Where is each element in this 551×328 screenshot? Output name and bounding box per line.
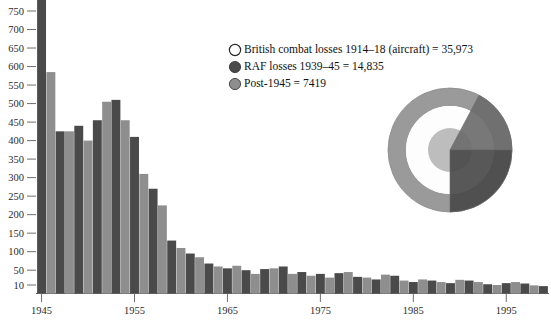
x-tick-label: 1955 (124, 305, 145, 316)
y-tick-label: 10 (14, 280, 25, 291)
y-tick-label: 700 (8, 24, 24, 35)
bar (353, 277, 362, 294)
bar (335, 273, 344, 293)
chart-root: 1050100150200250300350400450500550600650… (0, 0, 551, 328)
bar (195, 257, 204, 293)
bar (269, 268, 278, 293)
bar (130, 137, 139, 294)
x-tick-label: 1995 (496, 305, 517, 316)
bar (167, 241, 176, 294)
y-tick-label: 750 (8, 6, 24, 17)
bar (390, 276, 399, 294)
bar (149, 189, 158, 294)
bar (102, 102, 111, 294)
y-tick-label: 550 (8, 80, 24, 91)
x-tick-label: 1985 (403, 305, 424, 316)
bar (372, 279, 381, 293)
bar (46, 72, 55, 293)
bar (307, 276, 316, 294)
bar (511, 282, 520, 293)
bar (251, 274, 260, 294)
bar (465, 281, 474, 294)
bar (446, 283, 455, 293)
bar (539, 286, 548, 293)
y-tick-label: 200 (8, 209, 24, 220)
histogram-and-pie-figure: 1050100150200250300350400450500550600650… (0, 0, 551, 328)
chart-legend: British combat losses 1914–18 (aircraft)… (229, 43, 473, 89)
bar (316, 274, 325, 294)
pie-chart (388, 88, 512, 212)
legend-marker-filled-circle-icon (229, 78, 240, 89)
legend-marker-filled-circle-icon (229, 61, 240, 72)
legend-marker-open-circle-icon (229, 44, 240, 55)
x-axis-group: 194519551965197519851995 (31, 294, 549, 317)
pie-wedge-lower-right-wedge (450, 150, 512, 212)
bar (204, 264, 213, 294)
y-tick-label: 100 (8, 246, 24, 257)
bar (381, 275, 390, 294)
y-axis-group: 1050100150200250300350400450500550600650… (8, 6, 36, 291)
bar (325, 278, 334, 294)
bar (502, 283, 511, 293)
bar (492, 285, 501, 294)
y-tick-label: 600 (8, 61, 24, 72)
bar (520, 284, 529, 294)
bar (260, 269, 269, 293)
y-tick-label: 350 (8, 154, 24, 165)
bar (437, 282, 446, 293)
bar (158, 205, 167, 293)
x-tick-label: 1975 (310, 305, 331, 316)
bar (242, 270, 251, 293)
bar-clipped (37, 0, 46, 294)
bar (297, 272, 306, 293)
bar (418, 279, 427, 293)
bar (111, 100, 120, 294)
legend-label: RAF losses 1939–45 = 14,835 (244, 60, 384, 73)
legend-label: Post-1945 = 7419 (244, 77, 326, 89)
bar (232, 266, 241, 294)
y-tick-label: 150 (8, 228, 24, 239)
bar (74, 126, 83, 294)
bar (139, 174, 148, 294)
bar (214, 266, 223, 293)
bar (84, 141, 93, 294)
y-tick-label: 250 (8, 191, 24, 202)
bar (427, 281, 436, 294)
bar (121, 120, 130, 293)
y-tick-label: 400 (8, 135, 24, 146)
bar (279, 266, 288, 293)
x-tick-label: 1945 (31, 305, 52, 316)
y-tick-label: 300 (8, 172, 24, 183)
legend-label: British combat losses 1914–18 (aircraft)… (244, 43, 473, 56)
bar (288, 274, 297, 294)
bar (400, 281, 409, 294)
bar (223, 268, 232, 293)
bar (186, 254, 195, 294)
bar (56, 131, 65, 293)
y-tick-label: 500 (8, 98, 24, 109)
y-tick-label: 450 (8, 117, 24, 128)
y-tick-label: 650 (8, 43, 24, 54)
bar (344, 272, 353, 293)
bar (455, 280, 464, 294)
bar (530, 285, 539, 293)
bar (483, 284, 492, 293)
bar (93, 120, 102, 293)
bar (177, 248, 186, 294)
x-tick-label: 1965 (217, 305, 238, 316)
y-tick-label: 50 (14, 265, 25, 276)
bar (65, 131, 74, 293)
bar (409, 282, 418, 293)
bar (362, 278, 371, 294)
bar (474, 282, 483, 293)
